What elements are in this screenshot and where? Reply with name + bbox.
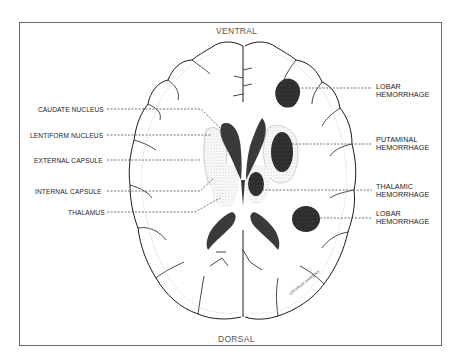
leader-thalamus [107,198,220,212]
right-ventricle-posterior-horn [250,212,279,250]
hemorrhages [248,78,320,232]
left-ventricle-posterior-horn [207,212,236,250]
putaminal-hemorrhage [271,132,293,172]
third-ventricle [241,180,245,206]
thalamic-hemorrhage [248,172,264,196]
lobar-hemorrhage-frontal [275,78,300,107]
left-thalamus [211,163,239,207]
leader-internal-capsule [107,178,214,191]
lobar-hemorrhage-posterior [292,206,320,232]
brain-axial-section-diagram [0,0,460,359]
leader-caudate [107,109,222,130]
